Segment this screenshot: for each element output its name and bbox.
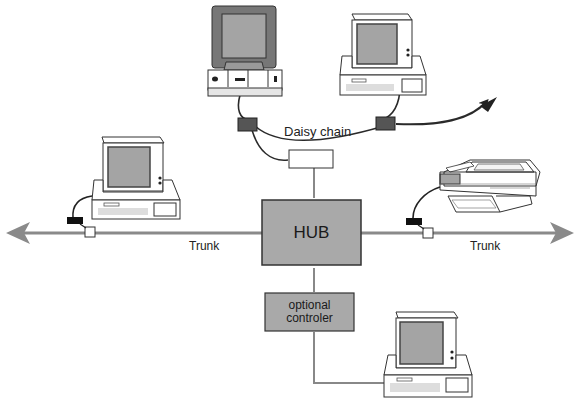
left-tap-connector (67, 217, 83, 224)
optional-controller-label: optional controler (265, 293, 354, 331)
desktop-computer-icon (208, 6, 282, 96)
daisy-chain-junction-box (289, 150, 333, 168)
computer-icon-bottom-right (384, 312, 472, 397)
controller-label-line2: controler (286, 312, 333, 325)
controller-to-workstation-link (314, 332, 392, 383)
printer-cable (413, 187, 440, 218)
network-diagram: Daisy chain Trunk Trunk HUB optional con… (0, 0, 579, 399)
right-trunk-tap (423, 228, 433, 238)
left-trunk-tap (85, 227, 95, 237)
daisy-connector-right (376, 117, 395, 130)
hub-label: HUB (262, 200, 361, 265)
daisy-chain-label: Daisy chain (284, 124, 351, 139)
daisy-connector-left (238, 118, 257, 131)
right-tap-connector (406, 218, 422, 225)
trunk-left-label: Trunk (189, 239, 219, 253)
laser-printer-icon (440, 160, 540, 212)
left-computer-cable (73, 196, 92, 218)
trunk-right-label: Trunk (470, 239, 500, 253)
computer-icon-left (92, 137, 180, 219)
computer-icon-top-right (340, 14, 426, 95)
